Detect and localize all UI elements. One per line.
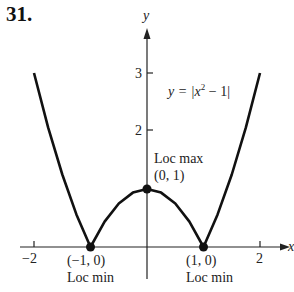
point-loc-max xyxy=(143,185,152,194)
y-axis-arrow-icon xyxy=(144,28,151,39)
chart: x y −2 2 3 2 y = |x2 − 1| Loc max (0, 1)… xyxy=(0,0,294,292)
loc-min-left-coord: (−1, 0) xyxy=(67,253,106,269)
y-axis-label: y xyxy=(141,8,150,23)
point-loc-min-right xyxy=(199,243,208,252)
loc-min-right-coord: (1, 0) xyxy=(186,253,217,269)
loc-min-right-text: Loc min xyxy=(186,270,233,285)
loc-min-left-text: Loc min xyxy=(67,270,114,285)
y-tick-label-3: 3 xyxy=(135,66,142,81)
function-label: y = |x2 − 1| xyxy=(166,82,230,99)
x-tick-label-2: 2 xyxy=(256,251,263,266)
x-tick-label-neg2: −2 xyxy=(22,251,37,266)
loc-max-text: Loc max xyxy=(154,151,203,166)
x-axis-label: x xyxy=(287,239,294,254)
y-tick-label-2: 2 xyxy=(135,123,142,138)
loc-max-coord: (0, 1) xyxy=(154,168,185,184)
point-loc-min-left xyxy=(86,243,95,252)
